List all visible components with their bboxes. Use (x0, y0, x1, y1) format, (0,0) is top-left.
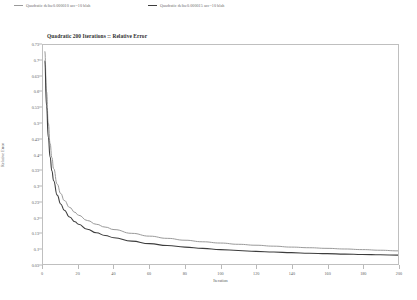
x-tick-label: 40 (111, 271, 115, 276)
x-tick-label: 80 (183, 271, 187, 276)
x-tick-label: 140 (289, 271, 295, 276)
chart-title: Quadratic 200 Iterations :: Relative Err… (47, 33, 147, 39)
x-tick-mark (292, 265, 293, 269)
chart-legend: Quadratic delta:0.000010 acc=10 blah Qua… (0, 3, 417, 15)
x-tick-label: 160 (324, 271, 330, 276)
x-tick-mark (113, 265, 114, 269)
series-canvas (43, 45, 398, 264)
x-axis-title: Iteration (42, 278, 399, 283)
x-tick-mark (256, 265, 257, 269)
x-tick-mark (363, 265, 364, 269)
x-tick-label: 100 (217, 271, 223, 276)
legend-label-series-1: Quadratic delta:0.000010 acc=10 blah (26, 3, 90, 8)
legend-swatch-series-2 (148, 5, 157, 6)
x-tick-label: 60 (147, 271, 151, 276)
x-tick-mark (78, 265, 79, 269)
series-line (45, 51, 398, 251)
x-tick-label: 20 (76, 271, 80, 276)
plot-area (43, 45, 398, 264)
x-axis: 020406080100120140160180200 (42, 265, 399, 279)
legend-swatch-series-1 (14, 5, 23, 6)
legend-item-series-1[interactable]: Quadratic delta:0.000010 acc=10 blah (14, 3, 90, 8)
x-tick-label: 180 (360, 271, 366, 276)
x-tick-mark (42, 265, 43, 269)
x-tick-label: 0 (41, 271, 43, 276)
x-tick-label: 200 (396, 271, 402, 276)
legend-item-series-2[interactable]: Quadratic delta:0.000015 acc=10 blah (148, 3, 224, 8)
x-tick-label: 120 (253, 271, 259, 276)
x-tick-mark (221, 265, 222, 269)
x-tick-mark (328, 265, 329, 269)
x-tick-mark (399, 265, 400, 269)
legend-label-series-2: Quadratic delta:0.000015 acc=10 blah (160, 3, 224, 8)
series-line (45, 61, 398, 255)
x-tick-mark (149, 265, 150, 269)
plot-frame (42, 44, 399, 265)
x-tick-mark (185, 265, 186, 269)
y-axis: 0.050.10.150.20.250.30.350.40.450.50.550… (0, 44, 42, 265)
chart-screenshot: Quadratic delta:0.000010 acc=10 blah Qua… (0, 0, 417, 300)
